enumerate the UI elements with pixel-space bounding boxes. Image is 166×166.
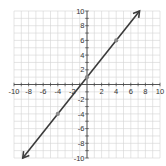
x-tick-label: -4 [54, 87, 61, 96]
x-tick-label: 6 [129, 87, 133, 96]
y-tick-label: -6 [78, 124, 85, 133]
data-point [56, 112, 60, 116]
y-tick-label: 8 [80, 21, 84, 30]
x-tick-label: 2 [100, 87, 104, 96]
coordinate-plane: -10-8-6-4-2246810108642-2-4-6-8-10 [0, 0, 166, 166]
data-point [114, 38, 118, 42]
data-point [85, 75, 89, 79]
y-tick-label: -2 [78, 95, 85, 104]
y-tick-label: -8 [78, 139, 85, 148]
x-tick-label: -6 [40, 87, 47, 96]
y-tick-label: 6 [80, 36, 84, 45]
x-tick-label: 4 [114, 87, 118, 96]
y-tick-label: 2 [80, 65, 84, 74]
x-tick-label: 10 [156, 87, 164, 96]
y-tick-label: -4 [78, 110, 85, 119]
x-tick-label: -2 [69, 87, 76, 96]
x-tick-label: 8 [143, 87, 147, 96]
y-tick-label: -10 [74, 154, 85, 163]
y-tick-label: 4 [80, 51, 84, 60]
x-tick-label: -8 [25, 87, 32, 96]
x-tick-label: -10 [9, 87, 20, 96]
y-tick-label: 10 [76, 7, 84, 16]
